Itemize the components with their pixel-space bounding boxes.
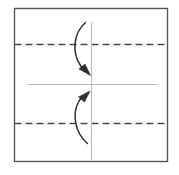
fold-diagram-canvas: Origami fold step diagram Square sheet w… [0,0,179,175]
origami-fold-diagram: Origami fold step diagram Square sheet w… [0,0,179,175]
